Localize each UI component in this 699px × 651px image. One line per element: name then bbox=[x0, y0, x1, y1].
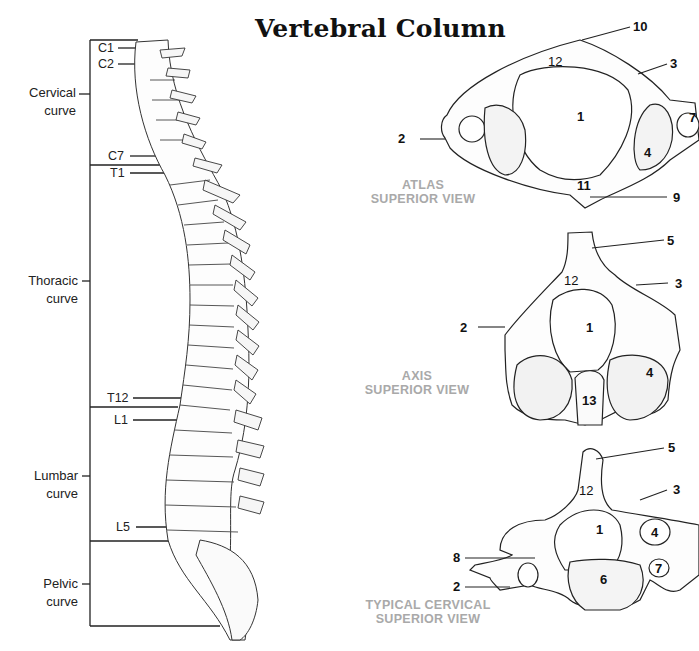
curve-lumbar-line1: Lumbar bbox=[8, 467, 78, 485]
cervical-callout-1: 1 bbox=[596, 522, 603, 537]
curve-cervical-line2: curve bbox=[8, 102, 76, 120]
cervical-callout-6: 6 bbox=[600, 572, 607, 587]
label-c7: C7 bbox=[108, 149, 124, 164]
cervical-callout-5: 5 bbox=[668, 440, 675, 455]
atlas-caption-line2: SUPERIOR VIEW bbox=[368, 192, 478, 206]
cervical-callout-3: 3 bbox=[673, 482, 680, 497]
atlas-callout-12: 12 bbox=[548, 54, 562, 69]
atlas-callout-11: 11 bbox=[577, 178, 591, 193]
atlas-callout-3: 3 bbox=[670, 56, 677, 71]
curve-lumbar: Lumbar curve bbox=[8, 467, 78, 503]
cervical-caption: TYPICAL CERVICAL SUPERIOR VIEW bbox=[358, 598, 498, 626]
label-c2: C2 bbox=[98, 57, 114, 72]
curve-thoracic-line2: curve bbox=[8, 290, 78, 308]
page-title: Vertebral Column bbox=[255, 14, 506, 43]
atlas-callout-9: 9 bbox=[673, 190, 680, 205]
curve-pelvic-line2: curve bbox=[8, 593, 78, 611]
atlas-callout-7: 7 bbox=[689, 110, 696, 125]
axis-callout-4: 4 bbox=[646, 365, 653, 380]
atlas-callout-4: 4 bbox=[644, 145, 651, 160]
curve-pelvic-line1: Pelvic bbox=[8, 575, 78, 593]
cervical-callout-8: 8 bbox=[453, 550, 460, 565]
axis-callout-13: 13 bbox=[582, 393, 596, 408]
cervical-caption-line2: SUPERIOR VIEW bbox=[358, 612, 498, 626]
label-t1: T1 bbox=[110, 166, 125, 181]
cervical-callout-7: 7 bbox=[655, 561, 662, 576]
curve-pelvic: Pelvic curve bbox=[8, 575, 78, 611]
axis-callout-3: 3 bbox=[675, 276, 682, 291]
axis-callout-1: 1 bbox=[586, 320, 593, 335]
label-l1: L1 bbox=[114, 413, 128, 428]
axis-caption-line1: AXIS bbox=[362, 369, 472, 383]
cervical-callout-4: 4 bbox=[651, 525, 658, 540]
label-c1: C1 bbox=[98, 41, 114, 56]
typical-cervical-illustration bbox=[470, 449, 699, 610]
axis-callout-5: 5 bbox=[667, 233, 674, 248]
atlas-callout-1: 1 bbox=[577, 109, 584, 124]
axis-callout-12: 12 bbox=[564, 273, 578, 288]
label-l5: L5 bbox=[116, 520, 130, 535]
curve-thoracic: Thoracic curve bbox=[8, 272, 78, 308]
atlas-caption-line1: ATLAS bbox=[368, 178, 478, 192]
axis-caption-line2: SUPERIOR VIEW bbox=[362, 383, 472, 397]
curve-cervical: Cervical curve bbox=[8, 84, 76, 120]
atlas-illustration bbox=[441, 40, 699, 208]
axis-callout-2: 2 bbox=[460, 320, 467, 335]
atlas-callout-10: 10 bbox=[633, 19, 647, 34]
curve-lumbar-line2: curve bbox=[8, 485, 78, 503]
axis-caption: AXIS SUPERIOR VIEW bbox=[362, 369, 472, 397]
curve-cervical-line1: Cervical bbox=[8, 84, 76, 102]
label-t12: T12 bbox=[107, 391, 129, 406]
atlas-callout-2: 2 bbox=[398, 131, 405, 146]
cervical-callout-2: 2 bbox=[453, 579, 460, 594]
diagram-artwork bbox=[0, 0, 699, 651]
spine-illustration bbox=[135, 40, 264, 640]
atlas-caption: ATLAS SUPERIOR VIEW bbox=[368, 178, 478, 206]
curve-thoracic-line1: Thoracic bbox=[8, 272, 78, 290]
cervical-callout-12: 12 bbox=[579, 483, 593, 498]
cervical-caption-line1: TYPICAL CERVICAL bbox=[358, 598, 498, 612]
